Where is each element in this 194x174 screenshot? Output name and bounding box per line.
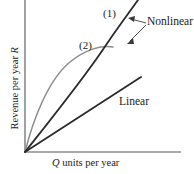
curve-1-callout-label: (1) xyxy=(103,8,116,19)
x-axis-label-text: units per year xyxy=(60,157,120,168)
arrowhead-to-curve-2 xyxy=(127,38,134,44)
curve-2-callout-label: (2) xyxy=(79,40,92,51)
nonlinear-callout-label: Nonlinear xyxy=(147,16,193,28)
x-axis-label: Q units per year xyxy=(52,158,119,169)
linear-callout-label: Linear xyxy=(119,96,149,108)
leader-line-to-curve-2 xyxy=(130,25,146,41)
y-axis-label: Revenue per year R xyxy=(10,40,21,136)
arrowhead-to-curve-1 xyxy=(128,16,135,22)
curve-1-nonlinear-convex xyxy=(25,0,138,152)
revenue-curves-figure: (1) (2) Nonlinear Linear Revenue per yea… xyxy=(0,0,194,174)
linear-line xyxy=(25,77,141,152)
y-axis-label-variable: R xyxy=(9,47,20,53)
x-axis-label-variable: Q xyxy=(52,157,60,168)
y-axis-label-text: Revenue per year xyxy=(9,53,20,129)
